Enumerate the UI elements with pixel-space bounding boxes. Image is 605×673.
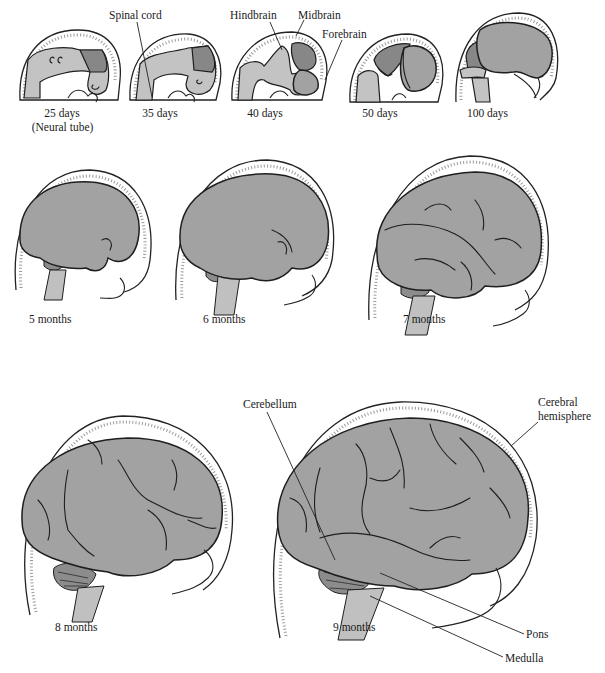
embryo-40-days-illustration [230,26,330,102]
stage-7-months [365,150,565,335]
stage-6-months [172,150,342,315]
label-25-days: 25 days [32,107,92,120]
label-8-months: 8 months [55,621,98,634]
fetus-9-months-illustration [260,378,560,643]
clipped-figure-caption [0,664,420,673]
fetus-8-months-illustration [8,400,238,620]
fetus-5-months-illustration [10,160,160,300]
fetus-7-months-illustration [365,150,565,335]
label-35-days: 35 days [130,107,190,120]
label-6-months: 6 months [203,313,246,326]
callout-forebrain: Forebrain [322,28,367,41]
label-7-months: 7 months [403,313,446,326]
callout-pons: Pons [526,628,548,641]
stage-9-months [260,378,560,643]
callout-cerebral-hemisphere-line2: hemisphere [538,410,591,423]
label-9-months: 9 months [333,621,376,634]
stage-35-days [128,28,223,102]
fetus-6-months-illustration [172,150,342,315]
stage-100-days [454,8,562,103]
callout-spinal-cord: Spinal cord [109,9,162,22]
stage-40-days [230,26,330,102]
label-5-months: 5 months [29,313,72,326]
callout-medulla: Medulla [505,652,543,665]
callout-cerebral-hemisphere-line1: Cerebral [538,396,578,409]
label-40-days: 40 days [235,107,295,120]
callout-cerebellum: Cerebellum [243,398,297,411]
label-neural-tube: (Neural tube) [20,121,105,134]
embryo-35-days-illustration [128,28,223,102]
callout-midbrain: Midbrain [298,9,341,22]
fetus-100-days-illustration [454,8,562,103]
stage-8-months [8,400,238,620]
label-100-days: 100 days [455,107,520,120]
neural-tube-illustration [18,20,118,102]
stage-5-months [10,160,160,300]
callout-hindbrain: Hindbrain [230,9,277,22]
label-50-days: 50 days [350,107,410,120]
stage-25-days [18,20,118,102]
